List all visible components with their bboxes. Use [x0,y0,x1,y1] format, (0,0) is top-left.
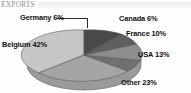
pie-label-canada: Canada 6% [119,15,158,23]
pie-label-france: France 10% [126,30,166,38]
heading-divider [38,2,191,8]
exports-pie-chart-figure: EXPORTS [0,0,191,93]
pie-label-other: Other 23% [121,79,157,87]
germany-leader-line-vertical [87,18,88,28]
pie-label-belgium: Belgium 42% [2,41,47,49]
chart-canvas: Germany 6% Canada 6% France 10% USA 13% … [0,9,191,93]
pie-label-usa: USA 13% [138,51,169,59]
pie-label-germany: Germany 6% [20,14,64,22]
